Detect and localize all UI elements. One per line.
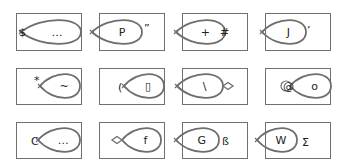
- grid-cell[interactable]: ▯(: [100, 69, 165, 105]
- teardrop-loop-icon: [177, 74, 223, 98]
- grid-canvas: …$P”+#J’~*▯(\o@…CfGßWΣ: [0, 0, 342, 164]
- grid-cell[interactable]: \: [175, 69, 248, 105]
- cross-mark-icon: [260, 30, 264, 34]
- loop-symbol: +: [201, 26, 210, 39]
- grid-cell[interactable]: ~*: [17, 69, 82, 105]
- outer-symbol: ”: [144, 22, 150, 35]
- loop-symbol: \: [203, 80, 207, 93]
- outer-symbol: $: [19, 26, 26, 39]
- grid-cell[interactable]: f: [100, 123, 165, 159]
- outer-symbol: C: [31, 135, 39, 148]
- cell-box: [100, 14, 165, 51]
- cross-mark-icon: [174, 30, 178, 34]
- teardrop-loop-icon: [122, 128, 161, 152]
- loop-symbol: f: [143, 134, 148, 147]
- cell-box: [17, 69, 82, 105]
- cell-box: [100, 123, 165, 159]
- outer-symbol: (: [118, 81, 122, 94]
- cross-mark-icon: [90, 30, 94, 34]
- outer-symbol: @: [283, 80, 294, 93]
- grid-cell[interactable]: …$: [17, 14, 82, 51]
- cell-box: [266, 14, 331, 51]
- teardrop-loop-icon: [262, 20, 306, 44]
- cell-box: [17, 123, 82, 159]
- grid-cell[interactable]: P”: [90, 14, 165, 51]
- cross-mark-icon: [175, 84, 179, 88]
- outer-symbol: ß: [222, 135, 229, 148]
- loop-symbol: o: [311, 80, 318, 93]
- diamond-icon: [223, 83, 233, 90]
- cell-box: [183, 14, 248, 51]
- cell-box: [183, 123, 248, 159]
- outer-symbol: #: [220, 26, 229, 39]
- grid-cell[interactable]: …C: [17, 123, 82, 159]
- cross-mark-icon: [255, 138, 259, 142]
- loop-symbol: G: [198, 134, 207, 147]
- loop-symbol: P: [119, 26, 126, 39]
- grid-cell[interactable]: +#: [174, 14, 248, 51]
- loop-symbol: J: [286, 26, 290, 39]
- grid-cell[interactable]: o@: [266, 69, 332, 105]
- puzzle-grid: …$P”+#J’~*▯(\o@…CfGßWΣ: [0, 0, 342, 164]
- loop-symbol: W: [276, 134, 287, 147]
- outer-symbol: ’: [307, 24, 311, 37]
- cell-box: [183, 69, 248, 105]
- loop-symbol: …: [52, 26, 63, 39]
- outer-symbol: Σ: [302, 136, 309, 149]
- cross-mark-icon: [174, 138, 178, 142]
- loop-symbol: ~: [59, 80, 68, 93]
- grid-cell[interactable]: J’: [260, 14, 331, 51]
- loop-symbol: …: [58, 134, 69, 147]
- grid-cell[interactable]: Gß: [174, 123, 248, 159]
- outer-symbol: *: [34, 74, 40, 87]
- cross-mark-icon: [122, 84, 126, 88]
- grid-cell[interactable]: WΣ: [255, 123, 331, 159]
- cell-box: [17, 14, 82, 51]
- diamond-icon: [112, 137, 122, 144]
- loop-symbol: ▯: [145, 80, 151, 93]
